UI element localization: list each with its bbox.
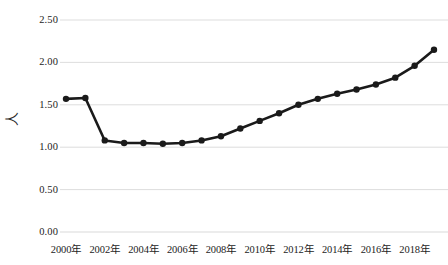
x-axis-tick-label: 2018年 — [393, 243, 437, 257]
plot-area — [60, 0, 448, 265]
x-axis-tick-label: 2008年 — [199, 243, 243, 257]
data-point-marker — [237, 125, 243, 131]
x-axis-tick-label: 2000年 — [44, 243, 88, 257]
data-point-marker — [160, 141, 166, 147]
data-point-marker — [334, 91, 340, 97]
x-axis-tick-label: 2016年 — [354, 243, 398, 257]
data-point-marker — [179, 140, 185, 146]
y-axis-tick-labels: 0.000.501.001.502.002.50 — [22, 0, 58, 265]
x-axis-tick-label: 2010年 — [238, 243, 282, 257]
y-axis-tick-label: 0.00 — [22, 226, 58, 237]
x-axis-tick-label: 2014年 — [315, 243, 359, 257]
data-point-marker — [102, 137, 108, 143]
data-point-marker — [411, 63, 417, 69]
gridlines — [60, 20, 448, 232]
data-point-marker — [218, 133, 224, 139]
data-point-marker — [431, 46, 437, 52]
y-axis-tick-label: 0.50 — [22, 184, 58, 195]
data-point-marker — [373, 81, 379, 87]
data-point-marker — [295, 102, 301, 108]
data-point-marker — [140, 140, 146, 146]
data-point-marker — [315, 96, 321, 102]
data-point-marker — [256, 118, 262, 124]
x-axis-tick-label: 2006年 — [160, 243, 204, 257]
data-point-marker — [63, 96, 69, 102]
data-point-marker — [121, 140, 127, 146]
y-axis-tick-label: 1.00 — [22, 141, 58, 152]
x-axis-tick-label: 2002年 — [83, 243, 127, 257]
y-axis-tick-label: 2.50 — [22, 14, 58, 25]
x-axis-tick-label: 2012年 — [276, 243, 320, 257]
data-point-marker — [198, 137, 204, 143]
series-line — [66, 50, 434, 144]
y-axis-tick-label: 2.00 — [22, 56, 58, 67]
line-chart: 人 0.000.501.001.502.002.50 2000年2002年200… — [0, 0, 448, 265]
data-point-marker — [392, 74, 398, 80]
x-axis-tick-label: 2004年 — [121, 243, 165, 257]
plot-svg — [60, 0, 448, 265]
data-point-marker — [276, 110, 282, 116]
x-axis-tick-labels: 2000年2002年2004年2006年2008年2010年2012年2014年… — [0, 243, 448, 263]
data-point-marker — [82, 95, 88, 101]
y-axis-tick-label: 1.50 — [22, 99, 58, 110]
data-point-marker — [353, 86, 359, 92]
series-markers — [63, 46, 437, 147]
